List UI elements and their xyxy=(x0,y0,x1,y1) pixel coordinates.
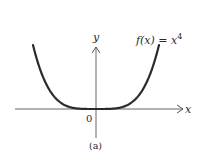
function-label: f(x) = x4 xyxy=(135,32,182,47)
caption: (a) xyxy=(89,140,102,151)
function-label-exponent: 4 xyxy=(177,32,182,41)
x-axis-label: x xyxy=(185,103,192,116)
function-graph: y x 0 (a) f(x) = x4 xyxy=(0,0,198,163)
y-axis-label: y xyxy=(92,31,100,44)
function-label-base: f(x) = x xyxy=(135,34,178,47)
origin-label: 0 xyxy=(86,113,92,124)
